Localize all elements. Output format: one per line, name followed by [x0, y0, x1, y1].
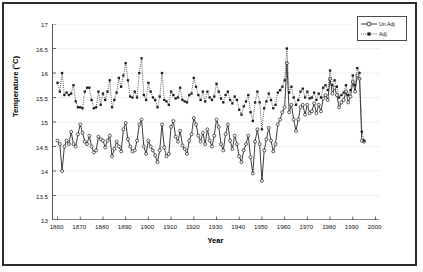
x-axis-tick-labels: 1860187018801890190019101920193019401950… [4, 223, 415, 237]
legend-item-adj[interactable]: Adj [360, 29, 404, 39]
temperature-chart: 1313.51414.51515.51616.517 Temperature (… [4, 4, 415, 264]
x-axis-tick: 1950 [254, 223, 268, 230]
x-axis-tick: 1930 [209, 223, 223, 230]
x-axis-tick: 2000 [368, 223, 382, 230]
x-axis-title: Year [52, 236, 379, 245]
legend-label: Un Adj [379, 21, 395, 27]
x-axis-tick: 1890 [118, 223, 132, 230]
y-axis-tick: 14 [8, 168, 52, 175]
x-axis-tick: 1990 [345, 223, 359, 230]
x-axis-tick: 1860 [50, 223, 64, 230]
legend-swatch-filled-square [360, 30, 378, 38]
plot-area [52, 24, 379, 220]
y-axis-tick: 14.5 [8, 143, 52, 150]
x-axis-tick: 1900 [140, 223, 154, 230]
x-axis-tick: 1870 [72, 223, 86, 230]
legend-item-un-adj[interactable]: Un Adj [360, 19, 404, 29]
x-axis-tick: 1880 [95, 223, 109, 230]
chart-legend: Un AdjAdj [357, 16, 407, 41]
y-axis-tick: 17 [8, 21, 52, 28]
x-axis-tick: 1980 [322, 223, 336, 230]
legend-swatch-open-circle [360, 20, 378, 28]
chart-frame: 1313.51414.51515.51616.517 Temperature (… [2, 2, 417, 266]
x-axis-tick: 1910 [163, 223, 177, 230]
series-canvas [53, 24, 380, 220]
x-axis-tick: 1920 [186, 223, 200, 230]
legend-label: Adj [379, 31, 387, 37]
x-axis-tick: 1940 [231, 223, 245, 230]
x-axis-tick: 1970 [299, 223, 313, 230]
x-axis-tick: 1960 [277, 223, 291, 230]
y-axis-title: Temperature (°C) [11, 32, 20, 142]
y-axis-tick: 13.5 [8, 192, 52, 199]
